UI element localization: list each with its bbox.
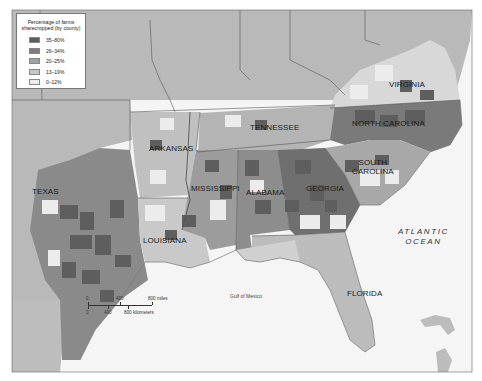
label-louisiana: LOUISIANA (143, 236, 187, 245)
legend-label: 35–80% (46, 37, 64, 43)
label-atlantic-line2: OCEAN (398, 237, 449, 247)
label-florida: FLORIDA (347, 289, 382, 298)
label-atlantic-line1: ATLANTIC (398, 227, 449, 237)
scale-km-0: 0 (86, 310, 89, 315)
legend-swatch (29, 69, 40, 75)
legend-items: 35–80% 26–34% 20–25% 13–19% 0–12% (17, 35, 85, 88)
label-south-carolina-line2: CAROLINA (352, 167, 394, 176)
scale-miles-400: 400 (116, 296, 124, 301)
legend-swatch (29, 79, 40, 85)
mexico-land (12, 300, 64, 372)
scale-km-400: 400 (104, 310, 112, 315)
label-south-carolina-line1: SOUTH (352, 158, 394, 167)
scale-tick (152, 302, 153, 305)
legend-item: 35–80% (29, 35, 85, 46)
label-gulf-of-mexico: Gulf of Mexico (230, 293, 262, 299)
legend-item: 0–12% (29, 77, 85, 88)
scale-miles-800: 800 miles (148, 296, 168, 301)
legend-item: 20–25% (29, 56, 85, 67)
legend-label: 13–19% (46, 69, 64, 75)
label-atlantic-ocean: ATLANTIC OCEAN (398, 227, 449, 247)
label-north-carolina: NORTH CAROLINA (352, 119, 425, 128)
scale-tick (108, 306, 109, 309)
legend-title-line2: sharecropped (by county) (17, 25, 85, 31)
label-south-carolina: SOUTH CAROLINA (352, 158, 394, 176)
scale-tick (88, 306, 89, 309)
legend-swatch (29, 48, 40, 54)
legend-label: 26–34% (46, 48, 64, 54)
legend-item: 26–34% (29, 46, 85, 57)
legend-swatch (29, 37, 40, 43)
label-texas: TEXAS (32, 187, 59, 196)
label-georgia: GEORGIA (306, 184, 344, 193)
label-arkansas: ARKANSAS (149, 144, 193, 153)
scale-miles-0: 0 (86, 296, 89, 301)
label-mississippi: MISSISSIPPI (191, 184, 240, 193)
scale-tick (88, 302, 89, 305)
legend-item: 13–19% (29, 67, 85, 78)
legend-label: 0–12% (46, 79, 62, 85)
label-alabama: ALABAMA (246, 188, 285, 197)
legend-title: Percentage of farms sharecropped (by cou… (17, 19, 85, 31)
label-virginia: VIRGINIA (389, 80, 425, 89)
scale-bar: 0 400 800 miles 0 400 800 kilometers (86, 296, 186, 320)
legend-label: 20–25% (46, 58, 64, 64)
legend: Percentage of farms sharecropped (by cou… (16, 13, 86, 89)
scale-line (88, 305, 152, 306)
legend-swatch (29, 58, 40, 64)
scale-tick (120, 302, 121, 305)
scale-km-800: 800 kilometers (124, 310, 154, 315)
label-tennessee: TENNESSEE (250, 123, 299, 132)
scale-tick (128, 306, 129, 309)
